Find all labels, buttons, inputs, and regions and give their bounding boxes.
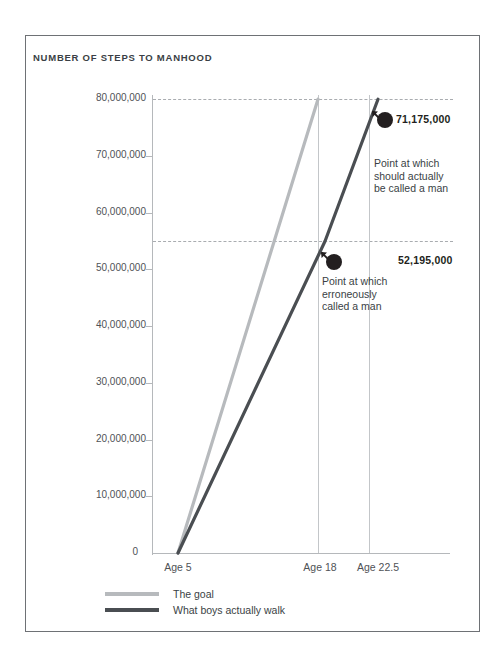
y-tick-label: 80,000,000	[96, 92, 146, 103]
y-tick-70000000: 70,000,000	[0, 149, 146, 163]
x-tick-label-age-5: Age 5	[164, 561, 191, 573]
legend-swatch-the-goal	[105, 592, 159, 596]
reference-line-71175000	[153, 99, 453, 100]
legend-item-the-goal: The goal	[105, 586, 285, 602]
reference-line-52195000	[153, 241, 453, 242]
y-tick-label: 60,000,000	[96, 206, 146, 217]
marker-dot-71175000	[377, 112, 393, 128]
line-what-boys-actually-walk	[178, 99, 378, 553]
gridline-age-18	[318, 95, 319, 554]
y-tick-60000000: 60,000,000	[0, 206, 146, 220]
line-the-goal	[178, 99, 318, 553]
chart-legend: The goal What boys actually walk	[105, 586, 285, 618]
legend-swatch-what-boys-actually-walk	[105, 608, 159, 612]
y-axis	[152, 95, 153, 555]
y-tick-40000000: 40,000,000	[0, 319, 146, 333]
y-tick-0: 0	[0, 546, 138, 560]
annotation-value-52195000: 52,195,000	[398, 254, 453, 266]
legend-label-the-goal: The goal	[173, 588, 214, 600]
y-tick-label: 20,000,000	[96, 433, 146, 444]
y-tick-label: 0	[132, 546, 138, 557]
x-axis	[152, 553, 450, 554]
y-tick-label: 10,000,000	[96, 489, 146, 500]
annotation-description-upper: Point at which should actually be called…	[374, 157, 448, 195]
y-tick-10000000: 10,000,000	[0, 489, 146, 503]
x-tick-label-age-22-5: Age 22.5	[357, 561, 399, 573]
legend-label-what-boys-actually-walk: What boys actually walk	[173, 604, 285, 616]
annotation-value-71175000: 71,175,000	[396, 113, 451, 125]
plot-area: 80,000,000 70,000,000 60,000,000 50,000,…	[0, 0, 503, 662]
y-tick-50000000: 50,000,000	[0, 262, 146, 276]
gridline-age-22-5	[369, 95, 370, 554]
annotation-description-lower: Point at which erroneously called a man	[322, 275, 387, 313]
legend-item-what-boys-actually-walk: What boys actually walk	[105, 602, 285, 618]
y-tick-label: 30,000,000	[96, 376, 146, 387]
y-tick-30000000: 30,000,000	[0, 376, 146, 390]
y-tick-label: 50,000,000	[96, 262, 146, 273]
y-tick-80000000: 80,000,000	[0, 92, 146, 106]
y-tick-label: 70,000,000	[96, 149, 146, 160]
marker-dot-52195000	[326, 254, 342, 270]
y-tick-20000000: 20,000,000	[0, 433, 146, 447]
x-tick-label-age-18: Age 18	[303, 561, 336, 573]
y-tick-label: 40,000,000	[96, 319, 146, 330]
